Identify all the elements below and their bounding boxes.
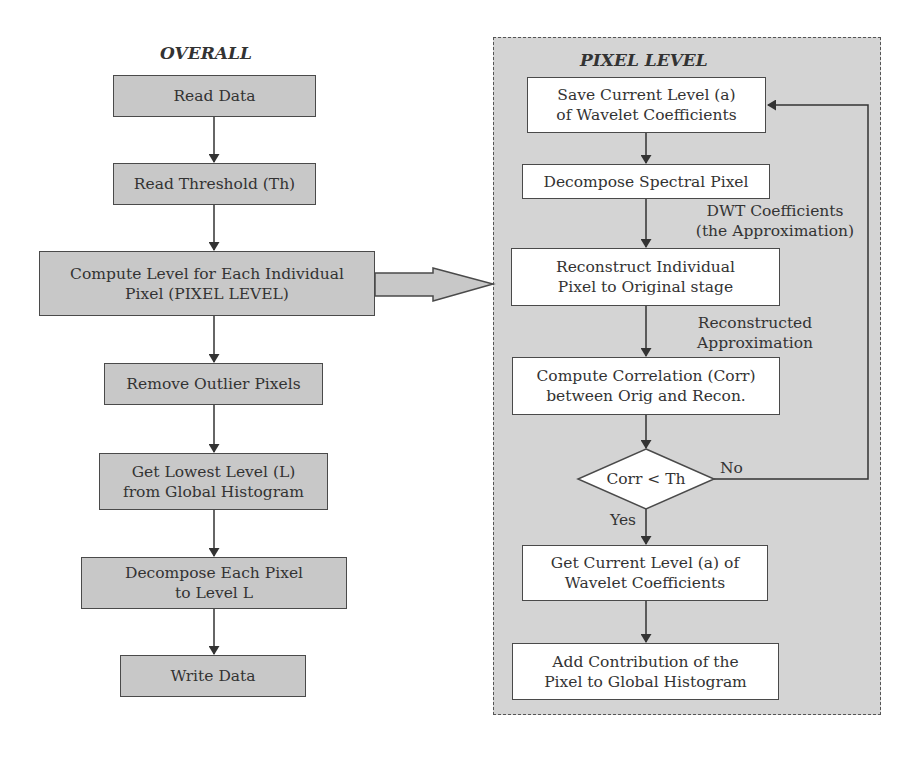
decision-no-label: No: [720, 458, 743, 478]
pixel-level-title: PIXEL LEVEL: [580, 50, 708, 70]
step-write-data: Write Data: [120, 655, 306, 697]
edge-label-dwt: DWT Coefficients (the Approximation): [685, 201, 865, 241]
step-decompose-spectral-pixel: Decompose Spectral Pixel: [522, 164, 770, 199]
step-read-data: Read Data: [113, 75, 316, 117]
step-get-lowest-level: Get Lowest Level (L) from Global Histogr…: [99, 453, 328, 510]
overall-title: OVERALL: [160, 43, 252, 63]
step-decompose-each-pixel: Decompose Each Pixel to Level L: [81, 557, 347, 609]
decision-label: Corr < Th: [596, 469, 696, 489]
edge-label-reconstructed: Reconstructed Approximation: [680, 313, 830, 353]
step-reconstruct-pixel: Reconstruct Individual Pixel to Original…: [511, 248, 780, 306]
step-compute-level: Compute Level for Each Individual Pixel …: [39, 251, 375, 316]
decision-yes-label: Yes: [610, 510, 636, 530]
block-arrow-to-pixel-level: [375, 268, 493, 301]
step-save-current-level: Save Current Level (a) of Wavelet Coeffi…: [527, 77, 766, 133]
step-compute-correlation: Compute Correlation (Corr) between Orig …: [512, 357, 780, 415]
step-add-contribution: Add Contribution of the Pixel to Global …: [512, 643, 779, 700]
step-read-threshold: Read Threshold (Th): [113, 163, 316, 205]
step-remove-outliers: Remove Outlier Pixels: [104, 363, 323, 405]
step-get-current-level: Get Current Level (a) of Wavelet Coeffic…: [522, 545, 768, 601]
